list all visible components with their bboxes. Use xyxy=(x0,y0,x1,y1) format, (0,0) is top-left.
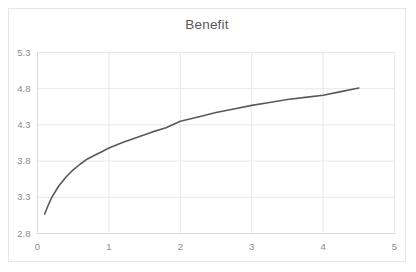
chart-plot-area xyxy=(0,0,416,272)
y-axis-tick-label: 3.3 xyxy=(7,191,31,202)
x-axis-tick-label: 0 xyxy=(26,241,50,252)
axis-lines xyxy=(38,53,395,234)
y-axis-tick-label: 2.8 xyxy=(7,228,31,239)
data-series-group xyxy=(45,88,359,214)
y-axis-tick-label: 4.3 xyxy=(7,119,31,130)
x-axis-tick-label: 5 xyxy=(383,241,407,252)
x-axis-tick-label: 4 xyxy=(311,241,335,252)
y-axis-tick-label: 3.8 xyxy=(7,155,31,166)
gridlines xyxy=(38,53,395,234)
x-axis-tick-label: 3 xyxy=(240,241,264,252)
x-axis-tick-label: 2 xyxy=(168,241,192,252)
x-axis-tick-label: 1 xyxy=(97,241,121,252)
y-axis-tick-label: 4.8 xyxy=(7,83,31,94)
y-axis-tick-label: 5.3 xyxy=(7,47,31,58)
data-line-benefit xyxy=(45,88,359,214)
